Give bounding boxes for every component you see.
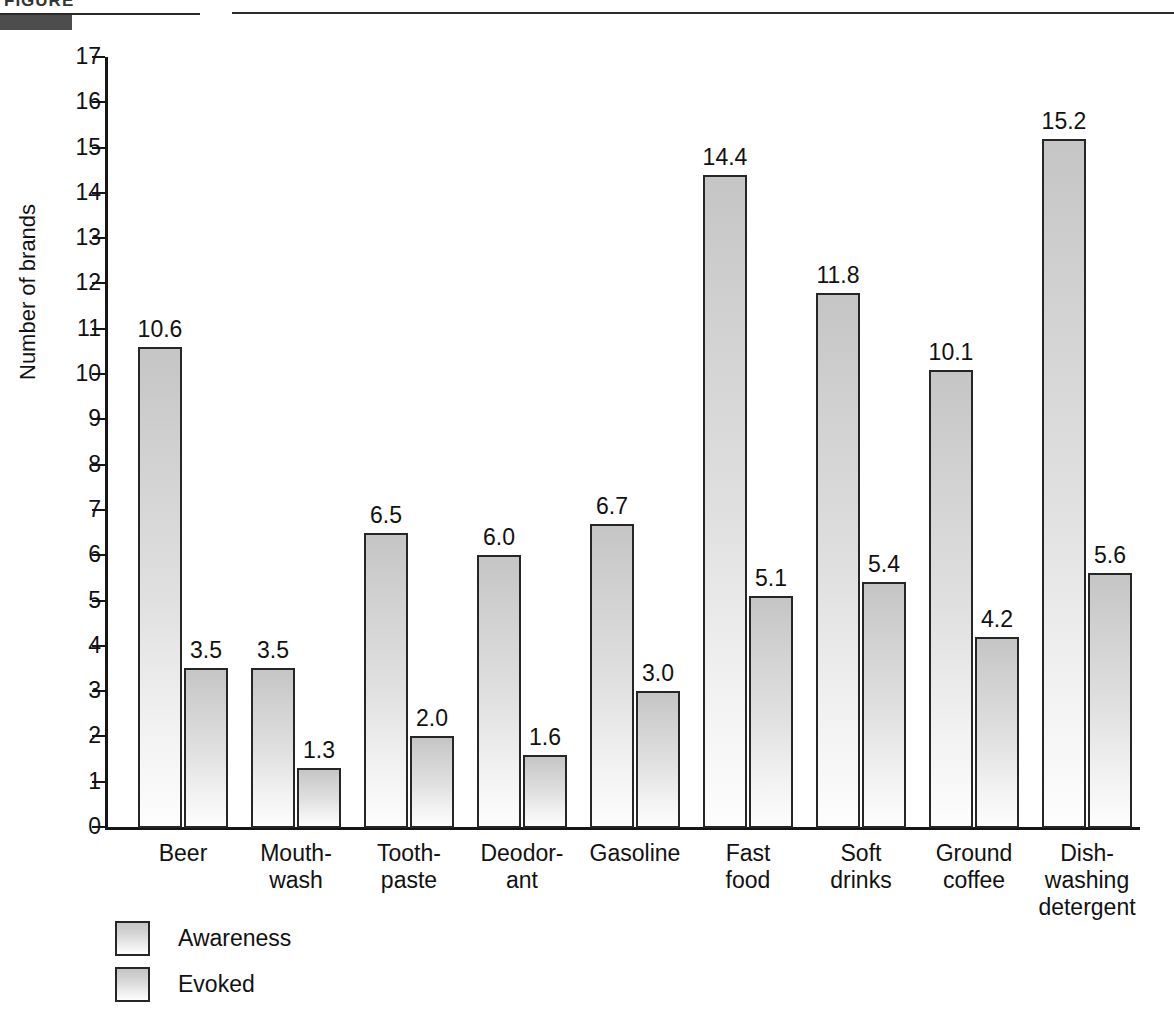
bar-evoked: [975, 637, 1019, 828]
bar-value-label: 5.1: [736, 567, 806, 590]
bar-value-label: 15.2: [1029, 110, 1099, 133]
bar-value-label: 6.0: [464, 526, 534, 549]
bar-value-label: 4.2: [962, 608, 1032, 631]
bar-evoked: [636, 691, 680, 828]
y-axis-tick-label: 9: [61, 407, 101, 430]
bar-chart: Number of brands 17161514131211109876543…: [0, 30, 1174, 1022]
y-axis-tick-label: 10: [61, 362, 101, 385]
y-axis-tick-label: 14: [61, 181, 101, 204]
x-axis-category-label: Dish- washing detergent: [1020, 840, 1154, 921]
figure-caption-clipped: FIGURE: [4, 0, 74, 11]
bar-evoked: [184, 668, 228, 828]
bar-value-label: 6.5: [351, 504, 421, 527]
bar-evoked: [523, 755, 567, 828]
bar-evoked: [297, 768, 341, 828]
y-axis-line: [105, 57, 108, 830]
bar-value-label: 6.7: [577, 495, 647, 518]
bar-value-label: 3.5: [238, 639, 308, 662]
y-axis-tick-label: 7: [61, 498, 101, 521]
bar-value-label: 10.1: [916, 341, 986, 364]
y-axis-tick-label: 6: [61, 543, 101, 566]
y-axis-tick-label: 1: [61, 770, 101, 793]
bar-awareness: [1042, 139, 1086, 828]
bar-value-label: 5.6: [1075, 544, 1145, 567]
y-axis-tick-label: 17: [61, 45, 101, 68]
y-axis-tick-label: 16: [61, 90, 101, 113]
y-axis-label: Number of brands: [15, 204, 41, 380]
y-axis-tick-label: 3: [61, 679, 101, 702]
y-axis-tick-label: 15: [61, 136, 101, 159]
header-rule-left: [0, 13, 200, 15]
bar-value-label: 11.8: [803, 264, 873, 287]
bar-evoked: [410, 736, 454, 828]
bar-value-label: 5.4: [849, 553, 919, 576]
y-axis-tick-label: 0: [61, 815, 101, 838]
bar-value-label: 14.4: [690, 146, 760, 169]
bar-evoked: [1088, 573, 1132, 828]
figure-header: FIGURE: [0, 0, 1174, 30]
legend-label: Evoked: [178, 971, 255, 998]
y-axis-tick-label: 2: [61, 724, 101, 747]
bar-value-label: 3.5: [171, 639, 241, 662]
legend-swatch-icon: [115, 967, 150, 1002]
figure-label-block: [0, 14, 72, 30]
bar-awareness: [138, 347, 182, 828]
bar-evoked: [749, 596, 793, 828]
legend-item: Awareness: [115, 915, 535, 961]
legend-swatch-icon: [115, 921, 150, 956]
y-axis-tick-label: 13: [61, 226, 101, 249]
bar-awareness: [703, 175, 747, 828]
y-axis-tick-label: 5: [61, 589, 101, 612]
bar-awareness: [364, 533, 408, 828]
chart-legend: AwarenessEvoked: [115, 915, 535, 1007]
bar-value-label: 2.0: [397, 707, 467, 730]
bar-awareness: [477, 555, 521, 828]
header-rule-right: [232, 12, 1174, 14]
bar-value-label: 3.0: [623, 662, 693, 685]
y-axis-tick-label: 11: [61, 317, 101, 340]
bar-awareness: [929, 370, 973, 828]
bar-value-label: 1.3: [284, 739, 354, 762]
bar-evoked: [862, 582, 906, 828]
legend-item: Evoked: [115, 961, 535, 1007]
plot-area: Number of brands 17161514131211109876543…: [105, 50, 1140, 836]
bar-value-label: 1.6: [510, 726, 580, 749]
legend-label: Awareness: [178, 925, 291, 952]
y-axis-tick-label: 4: [61, 634, 101, 657]
y-axis-tick-label: 8: [61, 453, 101, 476]
y-axis-tick-label: 12: [61, 271, 101, 294]
bar-value-label: 10.6: [125, 318, 195, 341]
